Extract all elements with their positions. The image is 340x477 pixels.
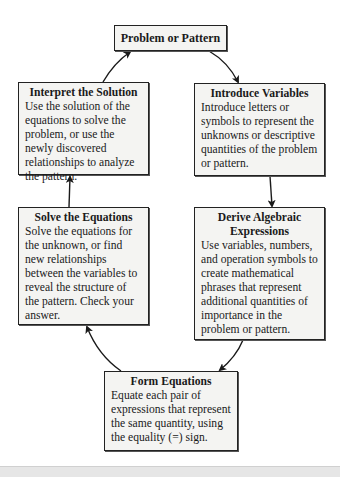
node-description: Solve the equations for the unknown, or … xyxy=(25,225,142,323)
node-title: Solve the Equations xyxy=(25,211,142,225)
node-solve-equations: Solve the Equations Solve the equations … xyxy=(18,207,149,325)
node-derive-expressions: Derive Algebraic Expressions Use variabl… xyxy=(194,207,325,340)
page-bottom-divider xyxy=(0,466,340,477)
arrow-form-to-solve xyxy=(87,327,121,371)
node-description: Introduce letters or symbols to represen… xyxy=(201,101,318,171)
node-introduce-variables: Introduce Variables Introduce letters or… xyxy=(194,83,325,176)
node-title: Interpret the Solution xyxy=(25,86,142,100)
node-title: Form Equations xyxy=(111,375,231,389)
node-description: Equate each pair of expressions that rep… xyxy=(111,389,231,445)
arrow-introduce-to-derive xyxy=(270,176,272,206)
node-title: Introduce Variables xyxy=(201,87,318,101)
node-problem-or-pattern: Problem or Pattern xyxy=(114,25,227,51)
node-interpret-solution: Interpret the Solution Use the solution … xyxy=(18,82,149,175)
node-title: Derive Algebraic Expressions xyxy=(201,211,318,239)
arrow-derive-to-form xyxy=(220,340,243,370)
node-description: Use the solution of the equations to sol… xyxy=(25,100,142,184)
node-description: Use variables, numbers, and operation sy… xyxy=(201,239,318,337)
arrow-interpret-to-problem xyxy=(103,52,130,82)
node-form-equations: Form Equations Equate each pair of expre… xyxy=(104,371,238,451)
arrow-problem-to-introduce xyxy=(209,51,238,82)
node-title: Problem or Pattern xyxy=(121,31,221,45)
